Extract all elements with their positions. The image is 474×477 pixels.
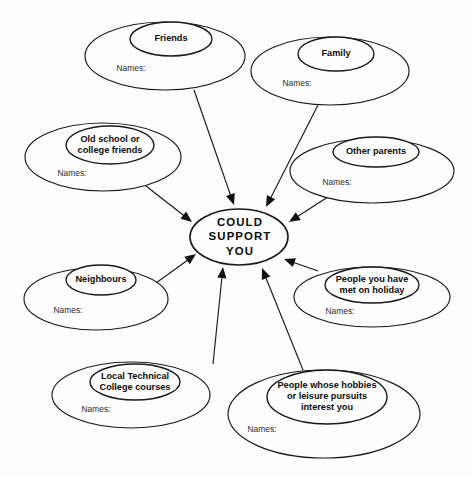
node-holiday[interactable]: People you havemet on holidayNames: <box>294 267 450 327</box>
center-label-line: SUPPORT <box>209 230 272 242</box>
arrowhead-old-school <box>181 212 192 222</box>
diagram-canvas: FriendsNames:FamilyNames:Old school orco… <box>0 0 474 477</box>
node-label-holiday: People you have <box>336 274 409 284</box>
node-label-other-parents: Other parents <box>346 146 406 156</box>
arrowhead-friends <box>226 193 235 205</box>
node-label-hobbies: interest you <box>301 402 353 412</box>
connector-line-old-school <box>146 186 185 217</box>
names-label-friends: Names: <box>117 63 146 73</box>
center-label-line: COULD <box>217 216 263 228</box>
names-label-holiday: Names: <box>326 306 355 316</box>
connector-line-friends <box>194 90 231 197</box>
node-hobbies[interactable]: People whose hobbiesor leisure pursuitsi… <box>228 370 420 458</box>
names-label-hobbies: Names: <box>248 424 277 434</box>
names-label-neighbours: Names: <box>54 305 83 315</box>
names-label-other-parents: Names: <box>323 177 352 187</box>
names-label-old-school: Names: <box>58 168 87 178</box>
node-label-hobbies: People whose hobbies <box>277 380 376 390</box>
node-old-school[interactable]: Old school orcollege friendsNames: <box>25 123 181 191</box>
node-neighbours[interactable]: NeighboursNames: <box>24 265 168 330</box>
names-label-family: Names: <box>283 78 312 88</box>
support-network-diagram: FriendsNames:FamilyNames:Old school orco… <box>0 0 474 477</box>
node-label-college-courses: College courses <box>100 382 171 392</box>
node-college-courses[interactable]: Local TechnicalCollege coursesNames: <box>52 362 210 428</box>
arrowhead-college-courses <box>217 267 226 278</box>
arrowhead-hobbies <box>262 268 271 280</box>
center-node-could-support-you[interactable]: COULDSUPPORTYOU <box>190 209 288 265</box>
arrowhead-other-parents <box>289 212 301 222</box>
center-label-line: YOU <box>226 245 254 257</box>
node-label-hobbies: or leisure pursuits <box>287 391 367 401</box>
connector-line-neighbours <box>156 259 189 283</box>
node-label-college-courses: Local Technical <box>101 371 169 381</box>
arrowhead-neighbours <box>184 254 196 264</box>
arrowhead-holiday <box>284 258 296 267</box>
connector-line-college-courses <box>213 276 222 364</box>
node-label-old-school: Old school or <box>80 134 140 144</box>
names-label-college-courses: Names: <box>82 404 111 414</box>
node-label-friends: Friends <box>154 33 187 43</box>
node-label-old-school: college friends <box>78 145 143 155</box>
connector-line-holiday <box>292 262 318 271</box>
node-family[interactable]: FamilyNames: <box>251 37 409 105</box>
node-friends[interactable]: FriendsNames: <box>85 22 245 90</box>
node-label-neighbours: Neighbours <box>75 274 126 284</box>
center-node: COULDSUPPORTYOU <box>190 209 288 265</box>
node-label-family: Family <box>321 48 351 58</box>
node-other-parents[interactable]: Other parentsNames: <box>290 137 454 203</box>
node-label-holiday: met on holiday <box>340 285 406 295</box>
